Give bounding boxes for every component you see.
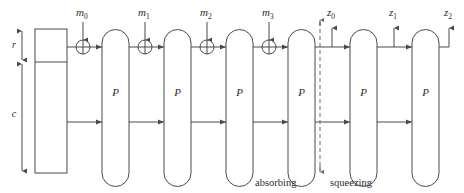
capacity-axis-label: c xyxy=(12,108,17,119)
sponge-diagram-canvas: r c xyxy=(0,0,464,193)
permutation-block-5: P xyxy=(350,30,377,187)
permutation-block-4: P xyxy=(288,30,315,187)
permutation-label: P xyxy=(111,86,119,98)
xor-gate-m3 xyxy=(262,22,276,54)
xor-gate-m1 xyxy=(138,22,152,54)
message-base: m xyxy=(200,6,208,18)
message-subscript: 2 xyxy=(208,12,212,21)
xor-gate-m0 xyxy=(76,22,90,54)
message-label-m3: m3 xyxy=(262,6,274,21)
message-label-m1: m1 xyxy=(138,6,150,21)
output-label-z0: z0 xyxy=(326,6,335,21)
svg-text:m3: m3 xyxy=(262,6,274,21)
permutation-label: P xyxy=(359,86,367,98)
output-subscript: 1 xyxy=(393,12,397,21)
permutation-label: P xyxy=(235,86,243,98)
message-base: m xyxy=(138,6,146,18)
svg-text:z2: z2 xyxy=(443,6,452,21)
xor-gate-m2 xyxy=(200,22,214,54)
rate-axis-label: r xyxy=(12,39,16,50)
output-subscript: 0 xyxy=(331,12,335,21)
output-label-z2: z2 xyxy=(443,6,452,21)
message-subscript: 3 xyxy=(270,12,274,21)
initial-state-block xyxy=(35,29,67,173)
message-label-m0: m0 xyxy=(76,6,88,21)
message-base: m xyxy=(262,6,270,18)
message-subscript: 0 xyxy=(84,12,88,21)
permutation-label: P xyxy=(173,86,181,98)
permutation-label: P xyxy=(297,86,305,98)
svg-text:z1: z1 xyxy=(388,6,397,21)
output-label-z1: z1 xyxy=(388,6,397,21)
message-base: m xyxy=(76,6,84,18)
output-subscript: 2 xyxy=(448,12,452,21)
svg-text:m0: m0 xyxy=(76,6,88,21)
permutation-block-3: P xyxy=(226,30,253,187)
message-label-m2: m2 xyxy=(200,6,212,21)
message-subscript: 1 xyxy=(146,12,150,21)
phase-label-absorbing: absorbing xyxy=(255,177,297,188)
svg-text:m1: m1 xyxy=(138,6,150,21)
permutation-block-2: P xyxy=(164,30,191,187)
svg-text:z0: z0 xyxy=(326,6,335,21)
sponge-construction-diagram: r c xyxy=(0,0,464,193)
svg-text:m2: m2 xyxy=(200,6,212,21)
phase-label-squeezing: squeezing xyxy=(330,177,373,188)
permutation-label: P xyxy=(421,86,429,98)
permutation-block-6: P xyxy=(412,30,439,187)
permutation-block-1: P xyxy=(102,30,129,187)
